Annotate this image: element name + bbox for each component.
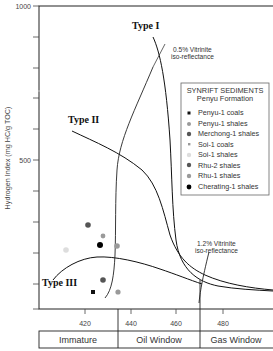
legend-item-penyu1-coals: Penyu-1 coals	[198, 108, 244, 117]
legend-item-rhu1-shales: Rhu-1 shales	[198, 171, 241, 180]
vr-12-label-line2: iso-reflectance	[195, 247, 238, 254]
zone-oil-window: Oil Window	[136, 335, 182, 345]
legend-marker-rhu2-shales	[187, 163, 191, 167]
x-tick-420: 420	[79, 320, 91, 327]
point-cherating1-shales	[97, 242, 103, 248]
point-merchong1-shales	[100, 277, 106, 283]
x-tick-480: 480	[217, 320, 229, 327]
legend-item-soi1-shales: Soi-1 shales	[198, 150, 238, 159]
y-tick-500: 500	[19, 157, 31, 164]
point-rhu1-shales	[114, 243, 120, 249]
vr-05-label-line2: iso-reflectance	[171, 53, 214, 60]
van-krevelen-chart: 1000 500 Hydrogen Index (mg HC/g TOC) 42…	[0, 0, 273, 351]
legend-marker-rhu1-shales	[187, 174, 191, 178]
legend-marker-soi1-shales	[187, 153, 191, 157]
type-i-label: Type I	[132, 20, 159, 31]
legend-item-rhu2-shales: Rhu-2 shales	[198, 161, 241, 170]
vr-05-isoline	[105, 67, 153, 298]
vr-12-isoline	[199, 252, 209, 303]
legend-marker-soi1-coals	[188, 143, 190, 145]
legend-marker-penyu1-coals	[188, 112, 191, 115]
legend: SYNRIFT SEDIMENTS Penyu Formation Penyu-…	[181, 83, 269, 195]
zone-gas-window: Gas Window	[210, 335, 262, 345]
legend-marker-penyu1-shales	[187, 122, 191, 126]
legend-marker-cherating1-shales	[187, 185, 192, 190]
legend-subtitle: Penyu Formation	[197, 94, 253, 103]
type-ii-label: Type II	[68, 114, 99, 125]
type-iii-label: Type III	[42, 277, 77, 288]
point-soi1-shales	[63, 247, 69, 253]
x-tick-460: 460	[170, 320, 182, 327]
legend-marker-merchong1-shales	[187, 132, 191, 136]
point-soi1-coals	[101, 234, 106, 239]
y-tick-1000: 1000	[15, 3, 31, 10]
y-axis-ticks	[33, 6, 39, 309]
point-penyu1-coals	[91, 290, 95, 294]
point-rhu2-shales	[85, 222, 91, 228]
vr-05-leader	[153, 44, 165, 67]
speck	[38, 90, 40, 92]
x-tick-440: 440	[125, 320, 137, 327]
legend-item-merchong1-shales: Merchong-1 shales	[198, 129, 260, 138]
vr-05-label-line1: 0.5% Vitrinite	[173, 46, 212, 53]
point-penyu1-shales	[115, 289, 120, 294]
y-axis-label: Hydrogen Index (mg HC/g TOC)	[3, 107, 12, 210]
legend-item-soi1-coals: Soi-1 coals	[198, 140, 234, 149]
zone-immature: Immature	[59, 335, 97, 345]
x-axis-ticks	[85, 309, 223, 314]
legend-item-penyu1-shales: Penyu-1 shales	[198, 119, 248, 128]
legend-item-cherating1-shales: Cherating-1 shales	[198, 182, 259, 191]
vr-12-label-line1: 1.2% Vitrinite	[197, 240, 236, 247]
